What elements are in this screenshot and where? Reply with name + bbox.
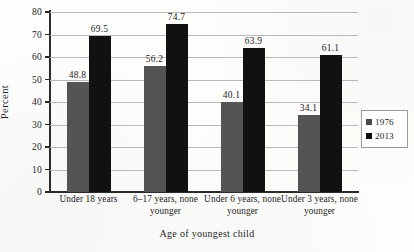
x-axis-category-label: 6–17 years, none younger <box>121 194 210 217</box>
y-axis-title: Percent <box>0 85 10 119</box>
bar-2013-1: 69.5 <box>89 36 111 192</box>
bar-value-label: 56.2 <box>146 54 163 64</box>
y-axis-tick <box>45 101 50 102</box>
bar-value-label: 61.1 <box>322 43 339 53</box>
bar-value-label: 74.7 <box>168 12 185 22</box>
y-axis-tick-label: 40 <box>32 97 42 107</box>
y-axis-tick <box>45 191 50 192</box>
bar-value-label: 34.1 <box>300 103 317 113</box>
legend-item-2013[interactable]: 2013 <box>366 129 404 143</box>
y-axis-tick <box>45 169 50 170</box>
bar-value-label: 63.9 <box>245 36 262 46</box>
plot-area: 0102030405060708048.869.556.274.740.163.… <box>50 12 358 192</box>
x-axis-category-label: Under 6 years, none younger <box>198 194 287 217</box>
bar-1976-2: 56.2 <box>144 66 166 192</box>
legend-item-1976[interactable]: 1976 <box>366 115 404 129</box>
y-axis-tick-label: 0 <box>37 187 42 197</box>
bar-1976-4: 34.1 <box>298 115 320 192</box>
y-axis-tick-label: 60 <box>32 52 42 62</box>
bar-2013-3: 63.9 <box>243 48 265 192</box>
bar-1976-3: 40.1 <box>221 102 243 192</box>
legend-swatch-1976-icon <box>366 119 372 125</box>
bar-2013-2: 74.7 <box>166 24 188 192</box>
bar-value-label: 40.1 <box>223 90 240 100</box>
y-axis-tick <box>45 146 50 147</box>
y-axis-tick <box>45 56 50 57</box>
bar-value-label: 48.8 <box>69 70 86 80</box>
y-axis-tick-label: 80 <box>32 7 42 17</box>
y-axis-tick-label: 20 <box>32 142 42 152</box>
y-axis-tick <box>45 34 50 35</box>
y-axis-tick-label: 30 <box>32 120 42 130</box>
y-axis-tick <box>45 79 50 80</box>
bar-value-label: 69.5 <box>91 24 108 34</box>
legend: 1976 2013 <box>361 110 408 148</box>
y-axis-tick-label: 50 <box>32 75 42 85</box>
y-axis-tick <box>45 124 50 125</box>
x-axis-category-label: Under 3 years, none younger <box>275 194 364 217</box>
bar-2013-4: 61.1 <box>320 55 342 192</box>
y-axis-tick <box>45 11 50 12</box>
y-axis-tick-label: 70 <box>32 30 42 40</box>
bar-chart-figure: Percent 0102030405060708048.869.556.274.… <box>0 0 414 252</box>
y-axis-tick-label: 10 <box>32 165 42 175</box>
bar-1976-1: 48.8 <box>67 82 89 192</box>
x-axis-title: Age of youngest child <box>0 228 414 239</box>
legend-swatch-2013-icon <box>366 133 372 139</box>
legend-label-1976: 1976 <box>375 117 394 127</box>
gridline <box>50 12 358 13</box>
legend-label-2013: 2013 <box>375 131 394 141</box>
x-axis-category-label: Under 18 years <box>44 194 133 206</box>
